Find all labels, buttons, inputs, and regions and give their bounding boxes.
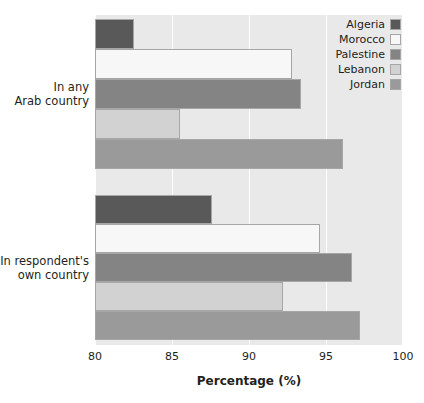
bar-jordan-group1[interactable] (95, 139, 343, 169)
legend-item-morocco[interactable]: Morocco (313, 32, 401, 46)
category-label-line-2: Arab country (0, 94, 89, 108)
legend-item-algeria[interactable]: Algeria (313, 17, 401, 31)
legend-swatch-morocco (390, 34, 401, 45)
bar-morocco-group1[interactable] (95, 49, 292, 79)
bar-morocco-group2[interactable] (95, 224, 320, 253)
category-label-line-1: In respondent's (0, 254, 89, 268)
legend-label-jordan: Jordan (350, 78, 385, 91)
x-axis-title: Percentage (%) (95, 374, 403, 388)
legend-item-jordan[interactable]: Jordan (313, 77, 401, 91)
category-label-line-1: In any (0, 80, 89, 94)
legend-item-lebanon[interactable]: Lebanon (313, 62, 401, 76)
bar-lebanon-group1[interactable] (95, 109, 180, 139)
bar-algeria-group1[interactable] (95, 19, 134, 49)
bar-algeria-group2[interactable] (95, 195, 212, 224)
xtick-label-90: 90 (242, 350, 256, 363)
bar-jordan-group2[interactable] (95, 311, 360, 340)
legend-swatch-lebanon (390, 64, 401, 75)
bar-palestine-group1[interactable] (95, 79, 301, 109)
xtick-label-100: 100 (393, 350, 414, 363)
xtick-label-85: 85 (165, 350, 179, 363)
legend-label-algeria: Algeria (346, 18, 385, 31)
bar-chart: In any Arab country In respondent's own … (0, 0, 424, 403)
legend-swatch-palestine (390, 49, 401, 60)
legend-label-palestine: Palestine (335, 48, 385, 61)
bar-palestine-group2[interactable] (95, 253, 352, 282)
bar-lebanon-group2[interactable] (95, 282, 283, 311)
category-label-line-2: own country (0, 268, 89, 282)
xtick-label-95: 95 (319, 350, 333, 363)
legend-swatch-jordan (390, 79, 401, 90)
legend-item-palestine[interactable]: Palestine (313, 47, 401, 61)
xtick-label-80: 80 (88, 350, 102, 363)
bar-group-in-respondents-own-country (95, 195, 403, 341)
category-label-in-respondents-own-country: In respondent's own country (0, 254, 89, 282)
legend-swatch-algeria (390, 19, 401, 30)
legend-label-lebanon: Lebanon (338, 63, 385, 76)
legend: Algeria Morocco Palestine Lebanon Jordan (313, 17, 401, 92)
category-label-in-any-arab-country: In any Arab country (0, 80, 89, 108)
legend-label-morocco: Morocco (339, 33, 385, 46)
